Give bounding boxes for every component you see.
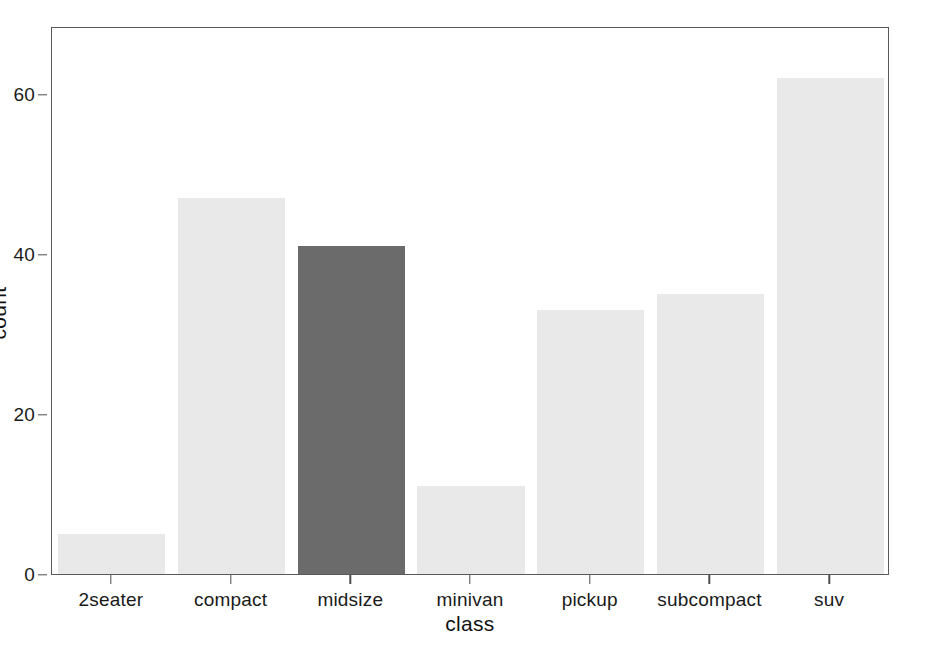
x-tick-mark-suv	[828, 575, 829, 584]
x-tick-mark-pickup	[589, 575, 590, 584]
x-tick-label-pickup: pickup	[562, 589, 618, 611]
x-tick-mark-midsize	[350, 575, 351, 584]
bar-subcompact	[657, 294, 764, 574]
x-tick-mark-minivan	[469, 575, 470, 584]
y-tick-label-20: 20	[13, 404, 35, 426]
bars-layer	[52, 28, 888, 574]
x-tick-label-2seater: 2seater	[78, 589, 143, 611]
bar-minivan	[417, 486, 524, 574]
y-tick-label-0: 0	[24, 564, 35, 586]
x-tick-label-minivan: minivan	[437, 589, 504, 611]
bar-midsize	[298, 246, 405, 574]
y-tick-label-60: 60	[13, 84, 35, 106]
y-tick-mark-60	[38, 94, 47, 95]
y-tick-label-40: 40	[13, 244, 35, 266]
bar-2seater	[58, 534, 165, 574]
x-tick-mark-2seater	[110, 575, 111, 584]
x-tick-mark-compact	[230, 575, 231, 584]
x-tick-label-suv: suv	[814, 589, 844, 611]
bar-compact	[178, 198, 285, 574]
y-axis: count 0204060	[0, 0, 51, 650]
chart-figure: count 0204060 2seatercompactmidsizeminiv…	[0, 0, 932, 650]
bar-suv	[777, 78, 884, 574]
y-tick-mark-40	[38, 254, 47, 255]
x-axis-title: class	[445, 612, 494, 636]
x-tick-label-compact: compact	[194, 589, 267, 611]
y-tick-mark-20	[38, 414, 47, 415]
x-tick-mark-subcompact	[709, 575, 710, 584]
x-tick-label-midsize: midsize	[317, 589, 383, 611]
bar-pickup	[537, 310, 644, 574]
y-axis-title: count	[0, 287, 11, 340]
x-tick-label-subcompact: subcompact	[657, 589, 761, 611]
plot-panel	[51, 27, 889, 575]
y-tick-mark-0	[38, 574, 47, 575]
